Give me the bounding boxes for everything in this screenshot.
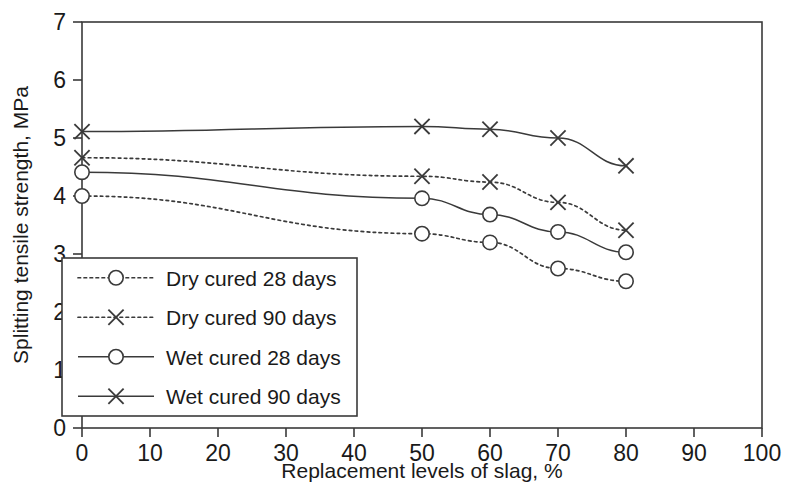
data-point-marker bbox=[415, 191, 429, 205]
data-point-marker bbox=[75, 165, 89, 179]
series-1 bbox=[74, 150, 633, 238]
y-tick-label: 4 bbox=[53, 183, 66, 209]
legend-marker-sample bbox=[109, 350, 123, 364]
x-tick-label: 90 bbox=[681, 440, 707, 466]
series-3 bbox=[74, 119, 633, 174]
legend-item-label: Wet cured 28 days bbox=[166, 346, 341, 369]
splitting-tensile-strength-chart: 01234567 0102030405060708090100 Dry cure… bbox=[0, 0, 790, 487]
y-tick-label: 6 bbox=[53, 67, 66, 93]
series-line bbox=[82, 158, 626, 231]
data-point-marker bbox=[619, 274, 633, 288]
x-tick-label: 100 bbox=[743, 440, 781, 466]
y-tick-label: 7 bbox=[53, 9, 66, 35]
legend-marker-sample bbox=[109, 271, 123, 285]
series-2 bbox=[75, 165, 633, 259]
series-line bbox=[82, 126, 626, 165]
data-point-marker bbox=[415, 227, 429, 241]
x-axis-title: Replacement levels of slag, % bbox=[281, 459, 562, 482]
x-tick-label: 20 bbox=[205, 440, 231, 466]
data-point-marker bbox=[551, 261, 565, 275]
data-point-marker bbox=[483, 235, 497, 249]
data-point-marker bbox=[75, 189, 89, 203]
data-point-marker bbox=[483, 207, 497, 221]
legend-item-label: Dry cured 90 days bbox=[166, 306, 336, 329]
x-axis-ticks bbox=[82, 428, 762, 437]
data-point-marker bbox=[618, 223, 633, 238]
x-tick-label: 0 bbox=[76, 440, 89, 466]
data-point-marker bbox=[551, 225, 565, 239]
x-tick-label: 10 bbox=[137, 440, 163, 466]
chart-legend: Dry cured 28 daysDry cured 90 daysWet cu… bbox=[62, 258, 357, 416]
legend-item-label: Wet cured 90 days bbox=[166, 385, 341, 408]
chart-container: 01234567 0102030405060708090100 Dry cure… bbox=[0, 0, 790, 487]
legend-item-label: Dry cured 28 days bbox=[166, 267, 336, 290]
y-tick-label: 5 bbox=[53, 125, 66, 151]
data-point-marker bbox=[619, 245, 633, 259]
y-axis-title: Splitting tensile strength, MPa bbox=[9, 86, 32, 364]
y-tick-label: 0 bbox=[53, 415, 66, 441]
x-tick-label: 80 bbox=[613, 440, 639, 466]
series-line bbox=[82, 172, 626, 252]
